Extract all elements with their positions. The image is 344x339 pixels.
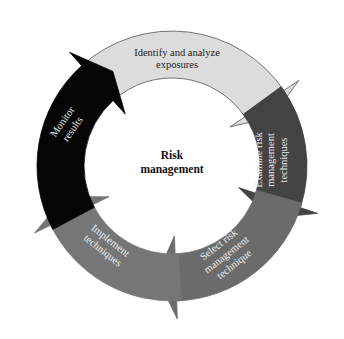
step-label-examine: Examine riskmanagementtechniques — [253, 131, 289, 187]
arrow-monitor — [37, 52, 125, 229]
risk-management-cycle-diagram: Identify and analyzeexposuresExamine ris… — [0, 0, 344, 339]
center-label: Riskmanagement — [140, 149, 203, 176]
